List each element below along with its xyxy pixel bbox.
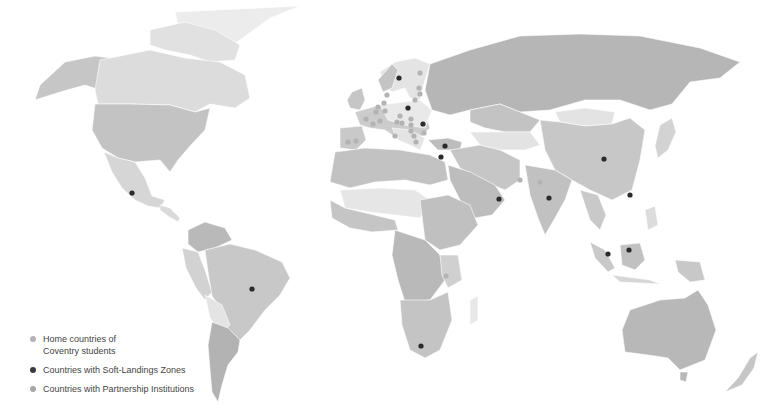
map-legend: Home countries of Coventry students Coun… — [30, 333, 194, 402]
soft-landing-dot — [442, 143, 447, 148]
home-country-dot — [417, 70, 422, 75]
soft-landing-dot — [601, 156, 606, 161]
home-country-dot — [370, 121, 375, 126]
home-country-dot — [413, 139, 418, 144]
home-country-dot — [408, 128, 413, 133]
home-dot-icon — [30, 336, 36, 342]
legend-label-soft-landing: Countries with Soft-Landings Zones — [43, 364, 186, 376]
new-guinea — [675, 260, 705, 282]
home-country-dot — [381, 100, 386, 105]
java-islands — [612, 275, 660, 284]
sumatra — [590, 242, 615, 272]
home-country-dot — [397, 113, 402, 118]
russia — [425, 34, 740, 115]
home-country-dot — [373, 109, 378, 114]
soft-landing-dot — [546, 195, 551, 200]
home-country-dot — [537, 179, 542, 184]
soft-landing-dot-icon — [30, 367, 36, 373]
home-country-dot — [411, 133, 416, 138]
home-country-dot — [399, 120, 404, 125]
soft-landing-dot — [438, 154, 443, 159]
soft-landing-dot — [129, 190, 134, 195]
home-country-dot — [408, 122, 413, 127]
home-country-dot — [345, 139, 350, 144]
home-country-dot — [382, 108, 387, 113]
southern-africa — [400, 292, 452, 358]
home-country-dot — [417, 91, 422, 96]
legend-item-partnership: Countries with Partnership Institutions — [30, 383, 194, 395]
japan — [655, 118, 676, 158]
home-country-dot — [394, 119, 399, 124]
madagascar — [470, 296, 478, 325]
home-country-dot — [412, 97, 417, 102]
southeast-asia — [580, 190, 606, 230]
home-country-dot — [353, 138, 358, 143]
legend-label-home-2: Coventry students — [43, 346, 116, 356]
soft-landing-dot — [396, 75, 401, 80]
soft-landing-dot — [605, 251, 610, 256]
soft-landing-dot — [418, 343, 423, 348]
home-country-dot — [384, 92, 389, 97]
legend-label-partnership: Countries with Partnership Institutions — [43, 383, 194, 395]
home-country-dot — [416, 85, 421, 90]
tanzania — [440, 255, 462, 288]
borneo — [620, 243, 645, 270]
home-country-dot — [517, 177, 522, 182]
new-zealand — [725, 352, 758, 392]
home-country-dot — [392, 133, 397, 138]
home-country-dot — [375, 104, 380, 109]
australia — [622, 290, 716, 370]
home-country-dot — [377, 118, 382, 123]
uk-ireland — [347, 88, 365, 110]
home-country-dot — [443, 273, 448, 278]
soft-landing-dot — [249, 286, 254, 291]
soft-landing-dot — [627, 192, 632, 197]
central-america — [160, 205, 180, 222]
soft-landing-dot — [405, 105, 410, 110]
north-africa — [330, 148, 448, 188]
iberia — [340, 126, 366, 150]
partnership-dot-icon — [30, 386, 36, 392]
tasmania — [680, 372, 688, 382]
soft-landing-dot — [626, 247, 631, 252]
philippines — [645, 206, 658, 230]
soft-landing-dot — [420, 121, 425, 126]
home-country-dot — [421, 130, 426, 135]
legend-item-home: Home countries of Coventry students — [30, 333, 194, 357]
soft-landing-dot — [496, 196, 501, 201]
legend-item-soft-landing: Countries with Soft-Landings Zones — [30, 364, 194, 376]
home-country-dot — [363, 116, 368, 121]
home-country-dot — [408, 116, 413, 121]
legend-label-home-1: Home countries of — [43, 334, 116, 344]
